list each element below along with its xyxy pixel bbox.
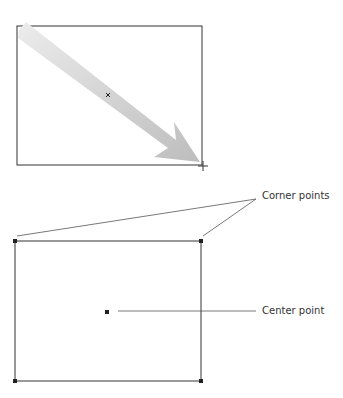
crosshair-cursor-icon [198, 161, 208, 171]
bottom-panel [13, 199, 256, 383]
corner-point-bottom-left [13, 379, 17, 383]
corner-point-bottom-right [199, 379, 203, 383]
top-panel [17, 22, 208, 171]
leader-line-corner-right [203, 199, 256, 236]
center-point [105, 310, 109, 314]
corner-points-label: Corner points [262, 190, 330, 201]
corner-point-top-right [199, 239, 203, 243]
corner-point-top-left [13, 239, 17, 243]
leader-line-corner-left [17, 199, 256, 236]
center-point-label: Center point [262, 305, 324, 316]
drag-arrow [18, 22, 200, 162]
